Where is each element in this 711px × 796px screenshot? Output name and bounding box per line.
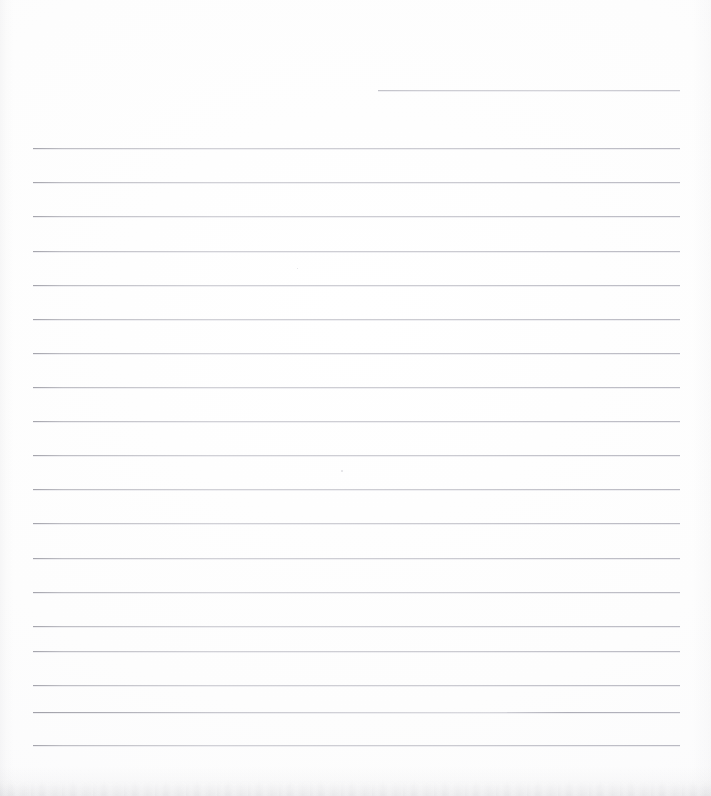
paper-background: [0, 0, 711, 796]
scanned-page: Blank ruled page — no text content prese…: [0, 0, 711, 796]
